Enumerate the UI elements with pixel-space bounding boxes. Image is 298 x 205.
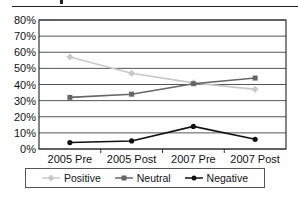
y-tick-label: 0%: [20, 143, 36, 155]
diamond-marker-icon: [66, 54, 73, 61]
square-marker-icon: [115, 174, 133, 182]
series-negative: [67, 124, 257, 145]
chart-legend: Positive Neutral Negative: [25, 168, 265, 188]
square-marker-icon: [67, 95, 72, 100]
y-tick-label: 30%: [14, 95, 36, 107]
y-tick-label: 40%: [14, 79, 36, 91]
square-marker-icon: [253, 76, 258, 81]
square-marker-icon: [191, 81, 196, 86]
circle-marker-icon: [129, 138, 134, 143]
x-tick-label: 2007 Pre: [171, 153, 216, 165]
legend-label: Positive: [64, 172, 101, 184]
line-chart: 0%10%20%30%40%50%60%70%80% 2005 Pre2005 …: [0, 0, 298, 168]
legend-label: Neutral: [137, 172, 171, 184]
y-tick-label: 50%: [14, 62, 36, 74]
y-tick-label: 20%: [14, 111, 36, 123]
series-neutral: [67, 76, 257, 100]
legend-label: Negative: [207, 172, 248, 184]
square-marker-icon: [129, 92, 134, 97]
diamond-marker-icon: [252, 86, 259, 93]
legend-item-negative: Negative: [185, 172, 248, 184]
circle-marker-icon: [253, 137, 258, 142]
circle-marker-icon: [191, 124, 196, 129]
x-tick-label: 2007 Post: [230, 153, 280, 165]
legend-item-neutral: Neutral: [115, 172, 171, 184]
series-positive: [66, 54, 258, 93]
gridlines: [39, 20, 286, 149]
legend-item-positive: Positive: [42, 172, 101, 184]
circle-marker-icon: [185, 174, 203, 182]
x-tick-label: 2005 Pre: [48, 153, 93, 165]
y-tick-label: 70%: [14, 30, 36, 42]
diamond-marker-icon: [42, 174, 60, 182]
y-tick-label: 10%: [14, 127, 36, 139]
y-tick-label: 60%: [14, 46, 36, 58]
x-axis-ticks: 2005 Pre2005 Post2007 Pre2007 Post: [48, 149, 280, 165]
series-lines: [66, 54, 258, 146]
y-axis-ticks: 0%10%20%30%40%50%60%70%80%: [14, 14, 36, 155]
x-tick-label: 2005 Post: [107, 153, 157, 165]
y-tick-label: 80%: [14, 14, 36, 26]
diamond-marker-icon: [128, 70, 135, 77]
circle-marker-icon: [67, 140, 72, 145]
